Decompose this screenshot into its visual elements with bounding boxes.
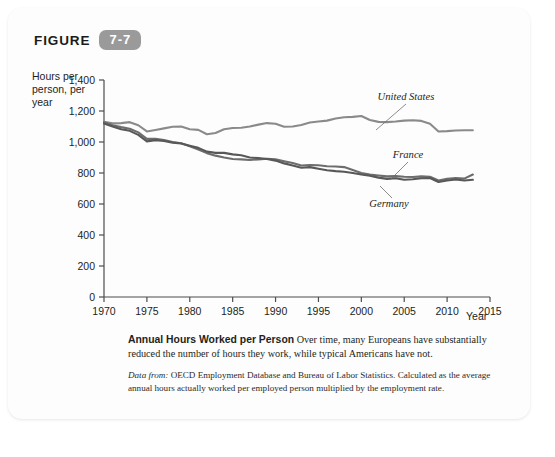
leader-line-united-states bbox=[376, 104, 406, 130]
annotation-france: France bbox=[392, 149, 424, 160]
annotation-united-states: United States bbox=[378, 91, 435, 102]
x-tick-label: 1990 bbox=[264, 305, 288, 317]
annotation-germany: Germany bbox=[369, 198, 409, 209]
y-tick-label: 1,200 bbox=[69, 105, 95, 117]
source-text: OECD Employment Database and Bureau of L… bbox=[128, 370, 490, 392]
caption-source: Data from: OECD Employment Database and … bbox=[128, 369, 512, 394]
x-tick-label: 1970 bbox=[92, 305, 116, 317]
caption-title: Annual Hours Worked per Person bbox=[128, 334, 294, 345]
x-tick-label: 2005 bbox=[393, 305, 417, 317]
leader-line-germany bbox=[380, 186, 392, 198]
source-label: Data from: bbox=[128, 370, 168, 380]
x-tick-label: 2010 bbox=[435, 305, 459, 317]
x-tick-label: 1975 bbox=[135, 305, 159, 317]
y-tick-label: 600 bbox=[77, 198, 95, 210]
x-tick-label: 1980 bbox=[178, 305, 202, 317]
y-tick-label: 1,400 bbox=[69, 74, 95, 86]
y-tick-label: 0 bbox=[89, 291, 95, 303]
series-line-united-states bbox=[104, 116, 473, 134]
axis-lines-group bbox=[104, 80, 490, 297]
x-tick-label: 2000 bbox=[350, 305, 374, 317]
series-annotations: United StatesFranceGermany bbox=[369, 91, 434, 209]
x-tick-label: 1995 bbox=[307, 305, 331, 317]
caption-main: Annual Hours Worked per Person Over time… bbox=[128, 333, 512, 361]
axis-ticks-group bbox=[99, 80, 490, 302]
y-tick-label: 400 bbox=[77, 229, 95, 241]
x-tick-label: 2015 bbox=[478, 305, 502, 317]
figure-card: FIGURE 7-7 Hours per person, per year Ye… bbox=[8, 8, 530, 419]
axis-tick-labels: 02004006008001,0001,2001,400197019751980… bbox=[69, 74, 502, 317]
x-tick-label: 1985 bbox=[221, 305, 245, 317]
y-tick-label: 1,000 bbox=[69, 136, 95, 148]
y-tick-label: 800 bbox=[77, 167, 95, 179]
y-tick-label: 200 bbox=[77, 260, 95, 272]
caption-block: Annual Hours Worked per Person Over time… bbox=[128, 333, 512, 394]
